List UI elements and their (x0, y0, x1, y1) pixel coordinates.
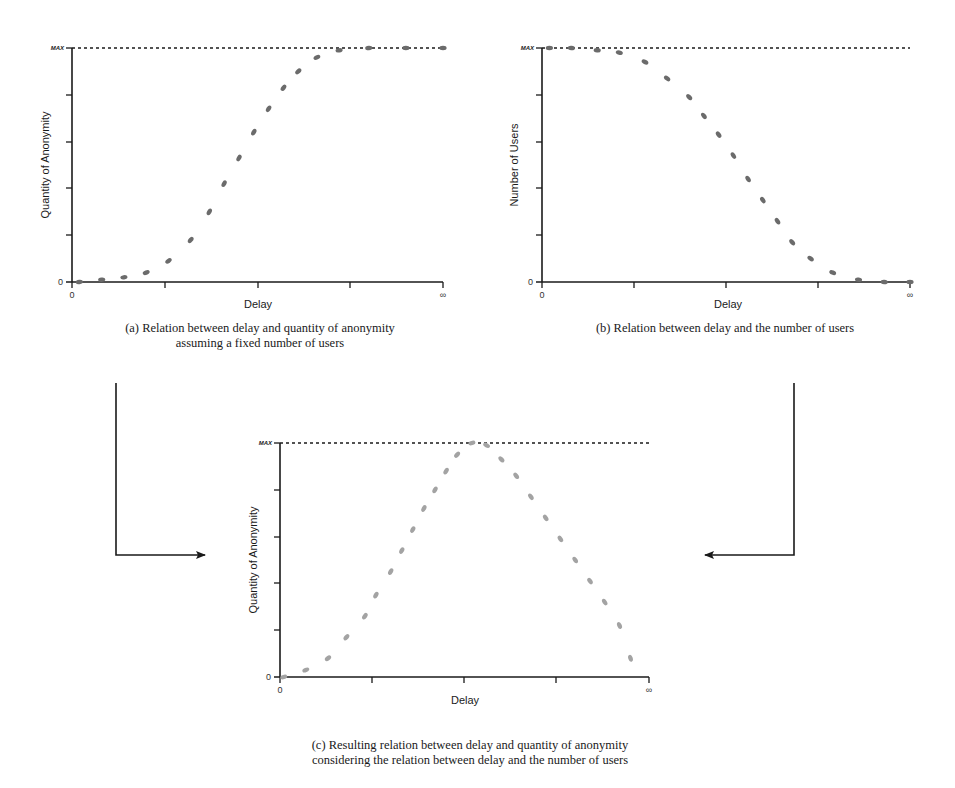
caption-a: (a) Relation between delay and quantity … (60, 321, 460, 351)
x-infinity-label: ∞ (440, 290, 446, 300)
x-infinity-label: ∞ (907, 290, 913, 300)
chart-c: MAX 0 0 ∞ Delay Quantity of Anonymity (247, 440, 652, 706)
x-zero-label: 0 (277, 685, 282, 695)
x-infinity-label: ∞ (646, 685, 652, 695)
y-zero-label: 0 (58, 277, 63, 287)
caption-c-line2: considering the relation between delay a… (240, 753, 700, 768)
data-point (361, 612, 369, 620)
data-point (601, 598, 609, 606)
x-zero-label: 0 (69, 290, 74, 300)
data-point (700, 112, 708, 120)
data-point (806, 255, 814, 263)
y-max-label: MAX (521, 45, 535, 51)
figure-canvas: MAX 0 0 ∞ Delay Quantity of Anonymity MA… (0, 0, 955, 788)
data-point (497, 455, 505, 463)
data-point (542, 514, 550, 522)
data-point (730, 151, 738, 159)
data-point (527, 493, 535, 501)
chart-a: MAX 0 0 ∞ Delay Quantity of Anonymity (39, 45, 447, 310)
data-point (616, 621, 623, 629)
x-axis-label: Delay (451, 694, 480, 706)
data-point (402, 46, 409, 50)
caption-c: (c) Resulting relation between delay and… (240, 738, 700, 768)
data-point (663, 74, 671, 82)
y-ticks (536, 48, 542, 235)
data-point (627, 654, 633, 662)
data-point (453, 451, 461, 459)
data-point (342, 633, 350, 641)
caption-a-line2: assuming a fixed number of users (60, 336, 460, 351)
data-point (557, 535, 565, 543)
arrow-b-to-c (705, 383, 794, 555)
data-point (641, 58, 649, 65)
data-point (265, 105, 273, 113)
chart-b: MAX 0 0 ∞ Delay Number of Users (508, 45, 914, 310)
data-point (409, 525, 416, 533)
data-point (294, 67, 302, 75)
caption-b: (b) Relation between delay and the numbe… (520, 321, 930, 336)
data-point (365, 46, 372, 51)
data-points (280, 440, 634, 680)
data-point (744, 175, 752, 183)
data-point (788, 238, 796, 246)
data-point (372, 591, 379, 599)
data-point (546, 46, 553, 50)
data-point (280, 84, 288, 92)
data-point (685, 93, 693, 101)
y-axis-label: Quantity of Anonymity (39, 111, 51, 218)
data-point (398, 546, 405, 554)
data-point (164, 257, 172, 265)
data-point (206, 208, 213, 216)
data-points (546, 46, 914, 285)
data-point (512, 472, 520, 480)
x-ticks (280, 677, 649, 683)
data-point (302, 667, 310, 674)
data-point (387, 567, 394, 575)
data-point (568, 46, 575, 51)
data-point (235, 154, 242, 162)
y-axis-label: Quantity of Anonymity (247, 506, 259, 613)
y-ticks (274, 443, 280, 630)
y-zero-label: 0 (266, 672, 271, 682)
caption-a-line1: (a) Relation between delay and quantity … (60, 321, 460, 336)
y-zero-label: 0 (528, 277, 533, 287)
data-point (571, 556, 579, 564)
data-point (829, 269, 837, 276)
data-points (76, 46, 447, 285)
data-point (439, 46, 446, 50)
data-point (881, 280, 888, 285)
y-ticks (66, 48, 72, 235)
data-point (442, 467, 450, 475)
data-point (615, 50, 623, 56)
x-ticks (542, 282, 910, 288)
y-max-label: MAX (51, 45, 65, 51)
data-point (420, 504, 427, 512)
data-point (142, 269, 150, 276)
data-point (324, 654, 332, 662)
caption-c-line1: (c) Resulting relation between delay and… (240, 738, 700, 753)
data-point (431, 486, 438, 494)
data-point (313, 54, 321, 61)
data-point (715, 130, 723, 138)
data-point (586, 577, 594, 585)
y-axis-label: Number of Users (508, 123, 520, 207)
x-ticks (72, 282, 443, 288)
data-point (468, 440, 476, 446)
x-axis-label: Delay (714, 298, 743, 310)
data-point (774, 217, 782, 225)
data-point (906, 280, 913, 284)
data-point (76, 279, 84, 284)
data-point (759, 196, 767, 204)
data-point (250, 128, 257, 136)
x-axis-label: Delay (244, 298, 273, 310)
data-point (220, 179, 227, 187)
data-point (280, 674, 288, 680)
data-point (593, 48, 601, 53)
data-point (187, 236, 195, 244)
x-zero-label: 0 (539, 290, 544, 300)
data-point (120, 275, 128, 280)
arrow-a-to-c (116, 383, 205, 555)
y-max-label: MAX (259, 440, 273, 446)
caption-b-line1: (b) Relation between delay and the numbe… (520, 321, 930, 336)
